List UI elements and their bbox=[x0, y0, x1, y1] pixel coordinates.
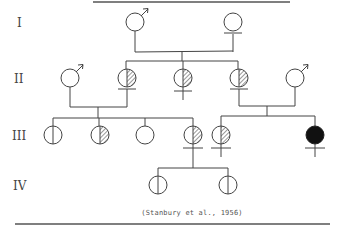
individual-II-4-female-hatched bbox=[230, 69, 248, 89]
individual-III-4-female-hatched bbox=[183, 126, 203, 157]
relationship-lines-I bbox=[126, 31, 238, 69]
generation-label-II: II bbox=[14, 72, 24, 86]
relationship-lines-II-left bbox=[53, 87, 193, 126]
individual-I-2-female bbox=[224, 13, 242, 33]
relationship-lines-II-right bbox=[221, 87, 315, 126]
individual-II-1-male bbox=[61, 65, 83, 88]
individual-II-5-male bbox=[286, 65, 308, 88]
individual-III-2-hatched bbox=[91, 126, 109, 144]
individual-IV-2-split bbox=[219, 176, 237, 194]
individual-III-1-split bbox=[44, 126, 62, 144]
individual-IV-1-split bbox=[149, 176, 167, 194]
individual-II-2-female-hatched bbox=[118, 69, 136, 89]
individual-I-1-male bbox=[126, 9, 148, 32]
individual-II-3-female-hatched bbox=[174, 69, 192, 100]
individual-III-3-plain bbox=[136, 126, 154, 144]
generation-label-IV: IV bbox=[13, 179, 27, 193]
citation: (Stanbury et al., 1956) bbox=[141, 209, 243, 217]
generation-label-I: I bbox=[17, 16, 22, 30]
individual-III-5-female-hatched bbox=[211, 126, 231, 157]
pedigree-diagram: I II III IV bbox=[0, 0, 339, 230]
relationship-lines-III bbox=[158, 157, 228, 176]
generation-label-III: III bbox=[12, 129, 26, 143]
individual-III-6-female-affected bbox=[305, 126, 325, 157]
